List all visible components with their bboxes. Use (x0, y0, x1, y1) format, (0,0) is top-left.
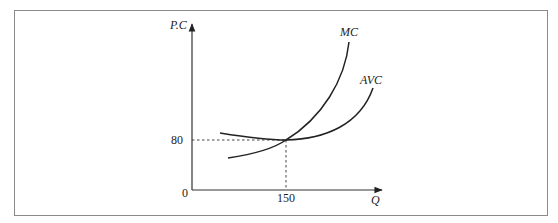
x-axis-label: Q (371, 193, 380, 207)
y-axis-label: P.C (169, 18, 188, 32)
origin-label: 0 (182, 186, 188, 200)
avc-label: AVC (359, 73, 383, 87)
chart-figure: P.C Q 0 80 150 MC AVC (0, 0, 558, 223)
mc-label: MC (339, 25, 359, 39)
figure-frame (15, 11, 548, 216)
y-tick-80: 80 (171, 133, 183, 147)
x-tick-150: 150 (277, 191, 295, 205)
